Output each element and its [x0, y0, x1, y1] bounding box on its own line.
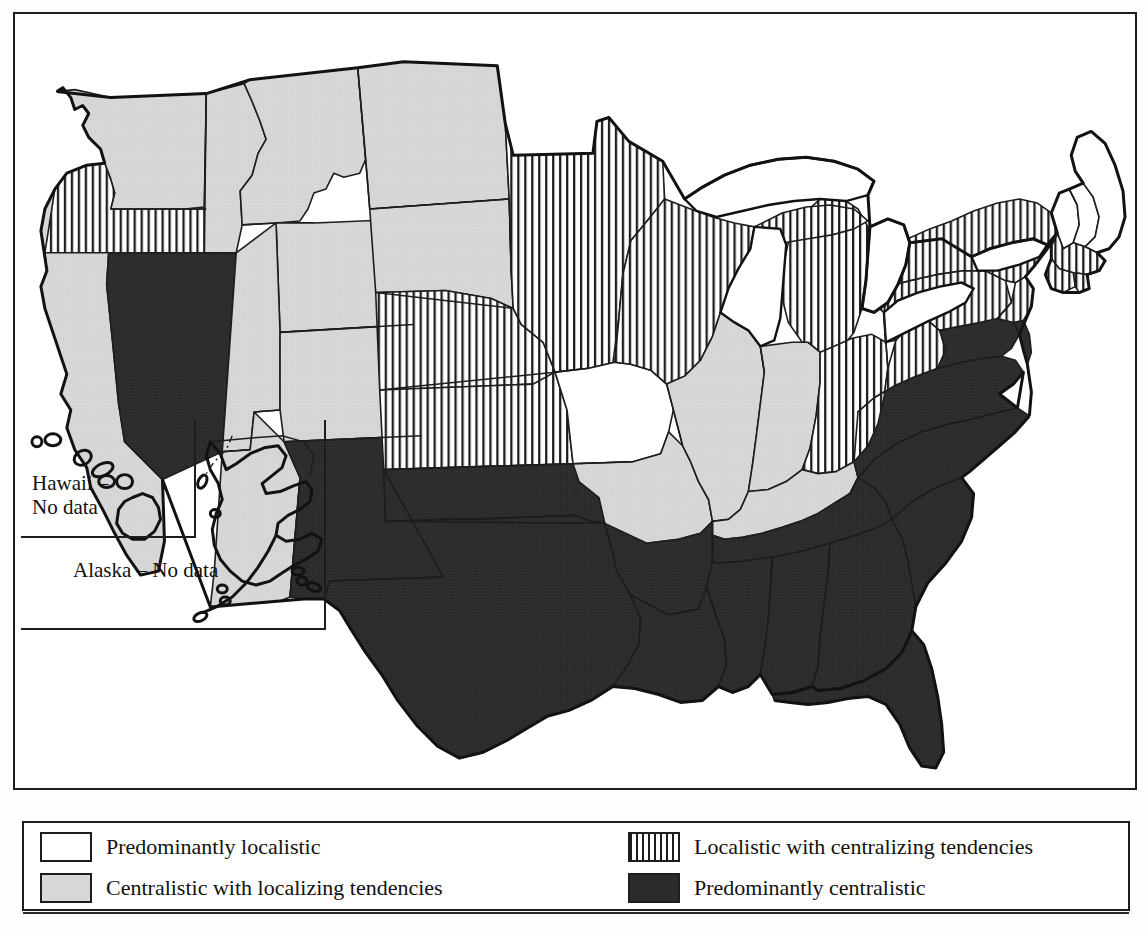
legend-swatch-stripe	[628, 832, 680, 862]
legend-label-gray: Centralistic with localizing tendencies	[106, 875, 443, 901]
legend-item-localistic-with-centralizing[interactable]: Localistic with centralizing tendencies	[628, 832, 1033, 862]
alaska-nodata-label: Alaska – No data	[73, 559, 218, 583]
state-ND[interactable]	[358, 62, 509, 209]
map-legend: Predominantly localistic Centralistic wi…	[22, 821, 1130, 911]
legend-label-dark: Predominantly centralistic	[694, 875, 926, 901]
legend-item-predominantly-localistic[interactable]: Predominantly localistic	[40, 832, 320, 862]
legend-swatch-white	[40, 832, 92, 862]
state-IA[interactable]	[555, 362, 675, 463]
legend-swatch-dark	[628, 873, 680, 903]
legend-label-stripe: Localistic with centralizing tendencies	[694, 834, 1033, 860]
us-choropleth-map	[15, 14, 1135, 788]
map-page: Hawaii – No data Alaska – No data Predom…	[0, 0, 1146, 933]
legend-item-centralistic-with-localizing[interactable]: Centralistic with localizing tendencies	[40, 873, 443, 903]
hawaii-nodata-label: Hawaii – No data	[32, 472, 108, 519]
state-OK[interactable]	[384, 464, 605, 524]
legend-item-predominantly-centralistic[interactable]: Predominantly centralistic	[628, 873, 926, 903]
map-frame: Hawaii – No data Alaska – No data	[13, 12, 1137, 790]
legend-swatch-gray	[40, 873, 92, 903]
legend-label-white: Predominantly localistic	[106, 834, 320, 860]
